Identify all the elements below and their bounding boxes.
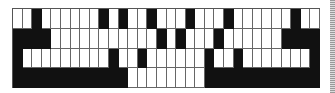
grid-cell bbox=[205, 49, 215, 69]
grid-cell bbox=[224, 49, 234, 69]
grid-cell bbox=[310, 68, 320, 88]
grid-cell bbox=[61, 49, 71, 69]
grid-cell bbox=[32, 29, 42, 49]
grid-cell bbox=[301, 49, 311, 69]
grid-cell bbox=[205, 68, 215, 88]
grid-cell bbox=[147, 68, 157, 88]
grid-cell bbox=[147, 49, 157, 69]
grid-cell bbox=[310, 49, 320, 69]
grid-cell bbox=[119, 68, 129, 88]
grid-cell bbox=[234, 9, 244, 29]
grid-cell bbox=[310, 9, 320, 29]
grid-cell bbox=[214, 68, 224, 88]
grid-cell bbox=[253, 68, 263, 88]
grid-cell bbox=[42, 29, 52, 49]
grid-cell bbox=[90, 29, 100, 49]
grid-cell bbox=[253, 49, 263, 69]
grid-cell bbox=[128, 68, 138, 88]
grid-cell bbox=[176, 9, 186, 29]
grid-cell bbox=[138, 49, 148, 69]
grid-cell bbox=[71, 68, 81, 88]
grid-cell bbox=[61, 29, 71, 49]
grid-cell bbox=[282, 49, 292, 69]
grid-cell bbox=[13, 9, 23, 29]
grid-cell bbox=[23, 29, 33, 49]
grid-cell bbox=[80, 29, 90, 49]
grid-cell bbox=[71, 29, 81, 49]
grid-cell bbox=[109, 29, 119, 49]
grid-cell bbox=[176, 29, 186, 49]
grid-cell bbox=[214, 9, 224, 29]
grid-cell bbox=[262, 68, 272, 88]
grid-cell bbox=[61, 68, 71, 88]
grid-cell bbox=[128, 49, 138, 69]
grid-cell bbox=[51, 29, 61, 49]
grid-cell bbox=[23, 68, 33, 88]
binary-pattern-grid bbox=[12, 8, 320, 88]
grid-cell bbox=[205, 9, 215, 29]
grid-cell bbox=[186, 68, 196, 88]
grid-cell bbox=[80, 49, 90, 69]
vertical-scrollbar[interactable] bbox=[330, 0, 335, 93]
grid-cell bbox=[234, 29, 244, 49]
grid-cell bbox=[253, 9, 263, 29]
grid-cell bbox=[272, 68, 282, 88]
grid-cell bbox=[80, 68, 90, 88]
grid-cell bbox=[109, 9, 119, 29]
grid-cell bbox=[224, 68, 234, 88]
grid-cell bbox=[42, 9, 52, 29]
grid-cell bbox=[224, 29, 234, 49]
grid-cell bbox=[138, 68, 148, 88]
grid-cell bbox=[32, 9, 42, 29]
grid-cell bbox=[99, 49, 109, 69]
grid-cell bbox=[71, 9, 81, 29]
grid-cell bbox=[71, 49, 81, 69]
grid-cell bbox=[138, 9, 148, 29]
grid-cell bbox=[214, 29, 224, 49]
grid-cell bbox=[61, 9, 71, 29]
grid-cell bbox=[51, 9, 61, 29]
grid-cell bbox=[147, 9, 157, 29]
grid-cell bbox=[23, 9, 33, 29]
grid-cell bbox=[195, 49, 205, 69]
grid-cell bbox=[224, 9, 234, 29]
grid-cell bbox=[42, 49, 52, 69]
grid-cell bbox=[195, 9, 205, 29]
grid-cell bbox=[157, 68, 167, 88]
grid-cell bbox=[109, 49, 119, 69]
grid-cell bbox=[195, 68, 205, 88]
grid-cell bbox=[310, 29, 320, 49]
grid-cell bbox=[272, 9, 282, 29]
grid-cell bbox=[157, 29, 167, 49]
grid-cell bbox=[186, 49, 196, 69]
grid-cell bbox=[262, 49, 272, 69]
grid-cell bbox=[262, 29, 272, 49]
grid-cell bbox=[90, 49, 100, 69]
grid-cell bbox=[51, 68, 61, 88]
grid-cell bbox=[272, 29, 282, 49]
grid-cell bbox=[109, 68, 119, 88]
grid-cell bbox=[291, 49, 301, 69]
grid-cell bbox=[99, 68, 109, 88]
grid-cell bbox=[282, 9, 292, 29]
grid-cell bbox=[291, 68, 301, 88]
grid-cell bbox=[234, 49, 244, 69]
grid-cell bbox=[291, 9, 301, 29]
grid-cell bbox=[253, 29, 263, 49]
grid-cell bbox=[195, 29, 205, 49]
grid-cell bbox=[301, 9, 311, 29]
grid-cell bbox=[176, 49, 186, 69]
grid-cell bbox=[80, 9, 90, 29]
grid-cell bbox=[176, 68, 186, 88]
grid-cell bbox=[90, 9, 100, 29]
grid-cell bbox=[186, 9, 196, 29]
grid-cell bbox=[243, 9, 253, 29]
grid-cell bbox=[282, 68, 292, 88]
grid-cell bbox=[157, 49, 167, 69]
grid-cell bbox=[234, 68, 244, 88]
grid-cell bbox=[262, 9, 272, 29]
grid-cell bbox=[32, 49, 42, 69]
grid-cell bbox=[282, 29, 292, 49]
grid-cell bbox=[90, 68, 100, 88]
grid-cell bbox=[186, 29, 196, 49]
